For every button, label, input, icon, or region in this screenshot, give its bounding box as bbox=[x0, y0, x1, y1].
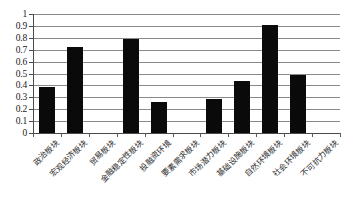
y-axis-tick-label: 0.9 bbox=[16, 21, 27, 31]
bar bbox=[67, 47, 83, 133]
y-axis-tick-label: 0.7 bbox=[16, 45, 27, 55]
bar bbox=[262, 25, 278, 133]
y-axis-tick-label: 0.1 bbox=[16, 116, 27, 126]
y-axis-tick-label: 0.3 bbox=[16, 92, 27, 102]
y-axis-tick-label: 0.4 bbox=[16, 80, 27, 90]
bar-series bbox=[33, 14, 340, 133]
y-axis-tick-label: 0.5 bbox=[16, 69, 27, 79]
bar bbox=[290, 75, 306, 133]
y-axis: 00.10.20.30.40.50.60.70.80.91 bbox=[0, 14, 31, 133]
y-axis-tick-label: 0.6 bbox=[16, 57, 27, 67]
bar bbox=[39, 87, 55, 133]
bar bbox=[123, 39, 139, 133]
y-axis-tick-label: 0.2 bbox=[16, 104, 27, 114]
bar bbox=[234, 81, 250, 133]
y-axis-tick-label: 1 bbox=[22, 9, 27, 19]
bar bbox=[151, 102, 167, 133]
bar-chart: 00.10.20.30.40.50.60.70.80.91 政治板块宏观经济板块… bbox=[0, 0, 349, 221]
x-axis-labels: 政治板块宏观经济板块贸易板块金融稳定性板块投融资环境要素需求板块市场潜力板块基础… bbox=[0, 133, 349, 221]
bar bbox=[206, 99, 222, 134]
y-axis-tick-label: 0.8 bbox=[16, 33, 27, 43]
